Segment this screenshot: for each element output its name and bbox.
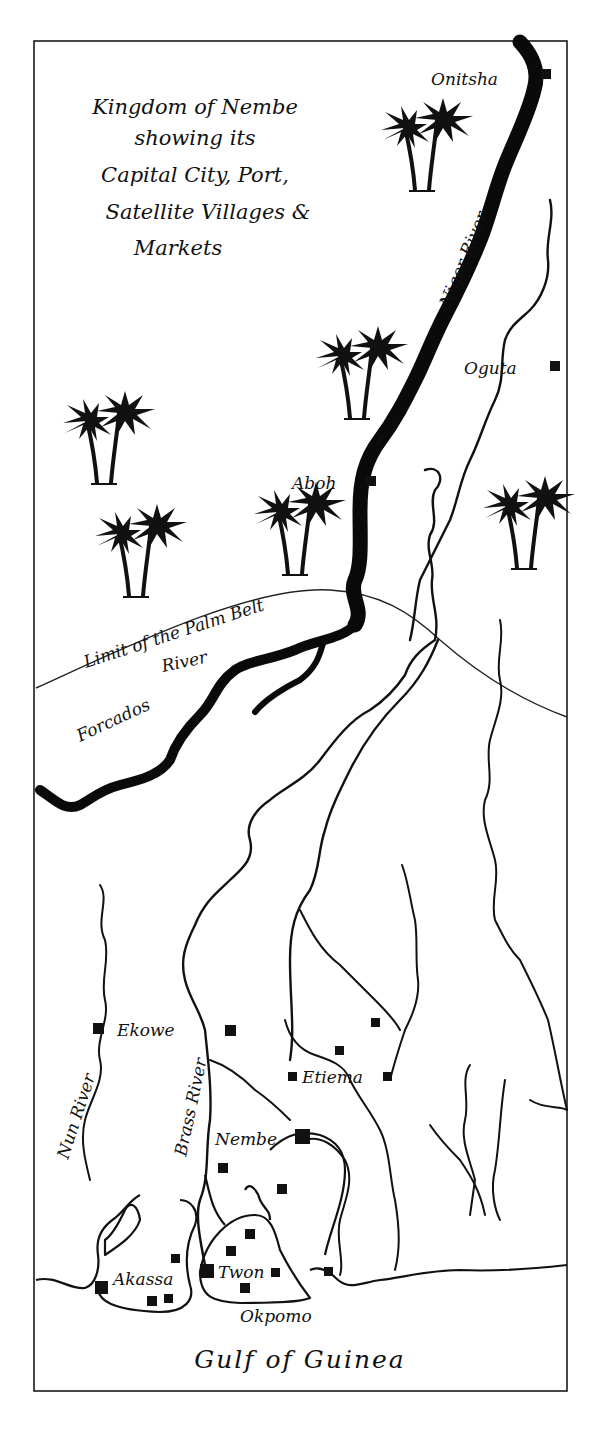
- akassa-label: Akassa: [111, 1269, 173, 1289]
- settlement-marker[interactable]: [383, 1072, 392, 1081]
- settlement-marker[interactable]: [271, 1268, 280, 1277]
- settlement-marker[interactable]: [164, 1294, 173, 1303]
- settlement-marker[interactable]: [335, 1046, 344, 1055]
- oguta-marker[interactable]: [550, 361, 560, 371]
- settlement-marker[interactable]: [324, 1267, 333, 1276]
- nembe-map: Kingdom of Nembe showing its Capital Cit…: [0, 0, 604, 1433]
- etiema-label: Etiema: [301, 1067, 363, 1087]
- aboh-label: Aboh: [290, 473, 336, 493]
- okpomo-label: Okpomo: [240, 1306, 312, 1326]
- etiema-marker[interactable]: [288, 1072, 297, 1081]
- nembe-capital-marker[interactable]: [295, 1129, 310, 1144]
- palm-tree-icon: [254, 482, 346, 575]
- oguta-label: Oguta: [464, 358, 517, 378]
- settlement-marker[interactable]: [171, 1254, 180, 1263]
- title-line-3: Capital City, Port,: [101, 163, 289, 187]
- akassa-marker[interactable]: [95, 1281, 108, 1294]
- title-line-2: showing its: [134, 126, 255, 150]
- nembe-label: Nembe: [214, 1129, 277, 1149]
- title-line-5: Markets: [133, 236, 223, 260]
- settlement-marker[interactable]: [277, 1184, 287, 1194]
- map-title: Kingdom of Nembe showing its Capital Cit…: [91, 95, 310, 260]
- settlement-marker[interactable]: [225, 1025, 236, 1036]
- title-line-1: Kingdom of Nembe: [91, 95, 298, 119]
- palm-tree-icon: [483, 476, 575, 569]
- aboh-marker[interactable]: [366, 476, 376, 486]
- twon-label: Twon: [218, 1262, 264, 1282]
- gulf-of-guinea-label: Gulf of Guinea: [194, 1345, 405, 1374]
- title-line-4: Satellite Villages &: [106, 200, 311, 224]
- settlement-marker[interactable]: [371, 1018, 380, 1027]
- nun-river-label: Nun River: [52, 1070, 99, 1162]
- forcados-river-label-river: River: [159, 647, 210, 677]
- settlement-marker[interactable]: [147, 1296, 157, 1306]
- settlement-marker[interactable]: [240, 1283, 250, 1293]
- ekowe-label: Ekowe: [116, 1020, 175, 1040]
- settlement-marker[interactable]: [226, 1246, 236, 1256]
- settlement-marker[interactable]: [218, 1163, 228, 1173]
- forcados-river-label: Forcados: [72, 694, 153, 746]
- twon-port-marker[interactable]: [200, 1264, 214, 1278]
- brass-river-label: Brass River: [170, 1055, 211, 1158]
- onitsha-label: Onitsha: [431, 69, 498, 89]
- palm-tree-icon: [381, 98, 473, 191]
- settlement-marker[interactable]: [245, 1229, 255, 1239]
- palm-tree-icon: [95, 504, 187, 597]
- palm-tree-icon: [63, 391, 155, 484]
- ekowe-marker[interactable]: [93, 1023, 104, 1034]
- onitsha-marker[interactable]: [541, 69, 551, 79]
